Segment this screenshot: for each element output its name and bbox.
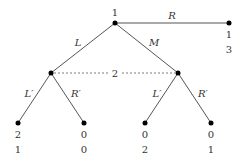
decision-node-M xyxy=(176,71,181,76)
terminal-node-ML xyxy=(143,121,148,126)
payoff-MR-player1: 0 xyxy=(208,129,214,140)
payoff-LL-player2: 1 xyxy=(15,144,21,155)
payoff-LL-player1: 2 xyxy=(15,129,21,140)
payoff-MR-player2: 1 xyxy=(208,144,214,155)
terminal-node-LR xyxy=(82,121,87,126)
payoff-R-player1: 1 xyxy=(226,29,232,40)
payoff-ML-player1: 0 xyxy=(142,129,148,140)
edge-L xyxy=(51,23,115,73)
decision-node-L xyxy=(49,71,54,76)
info-set-player-label: 2 xyxy=(112,68,118,79)
terminal-node-LL xyxy=(16,121,21,126)
action-label-L: L xyxy=(74,37,82,48)
edge-M-Lprime xyxy=(145,73,178,123)
action-label-R: R xyxy=(167,10,176,21)
game-tree: 2 1 L M R L′ R′ L′ R′ 1 3 2 1 0 0 0 2 0 … xyxy=(0,0,246,166)
payoff-R-player2: 3 xyxy=(226,44,232,55)
payoff-LR-player1: 0 xyxy=(81,129,87,140)
payoff-LR-player2: 0 xyxy=(81,144,87,155)
terminal-node-MR xyxy=(209,121,214,126)
root-player-label: 1 xyxy=(112,7,118,18)
payoff-ML-player2: 2 xyxy=(142,144,148,155)
action-label-M-Lprime: L′ xyxy=(152,88,163,99)
edge-L-Lprime xyxy=(18,73,51,123)
action-label-M-Rprime: R′ xyxy=(197,88,209,99)
root-node xyxy=(113,21,118,26)
edge-M xyxy=(115,23,178,73)
action-label-L-Lprime: L′ xyxy=(24,88,35,99)
action-label-L-Rprime: R′ xyxy=(70,88,82,99)
action-label-M: M xyxy=(148,37,160,48)
terminal-node-R xyxy=(227,21,232,26)
